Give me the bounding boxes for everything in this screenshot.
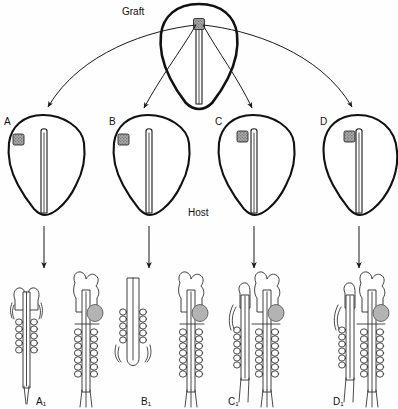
c1-secondary-embryo [229,283,250,402]
c1-host-embryo [252,272,284,407]
host-b-label: B [109,116,116,127]
c1-host-somites-left [255,329,262,377]
development-arrows [44,226,359,268]
c1-host-tail [261,390,273,407]
host-embryo-d: D [320,115,397,215]
a1-host-somites-right [90,329,97,377]
c1-host-otic-vesicle [268,305,284,322]
result-a1: A₁ [11,272,104,407]
d1-secondary-fin-folds [334,305,341,330]
result-a1-label: A₁ [36,396,47,407]
host-embryo-a: A [4,115,85,215]
result-c1: C₁ [228,272,284,407]
host-row-label: Host [188,207,209,218]
b1-secondary-embryo [115,278,151,366]
result-d1-label: D₁ [333,396,344,407]
figure-canvas: Graft A B [0,0,398,409]
host-a-label: A [4,116,11,127]
host-b-graft-marker [118,134,129,145]
embryo-transplantation-figure: Graft A B [0,0,398,409]
b1-host-tail [185,390,197,407]
d1-secondary-somites [339,327,346,368]
result-c1-label: C₁ [228,396,239,407]
host-d-label: D [320,116,327,127]
b1-secondary-somites-right [140,309,147,343]
a1-host-tail [80,390,92,407]
a1-secondary-somites-left [16,319,23,353]
d1-host-tail [366,390,378,407]
c1-secondary-fin-folds [229,305,236,330]
c1-secondary-somites [234,327,241,368]
a1-host-somites-left [74,329,81,377]
b1-host-somites-left [179,329,186,377]
host-c-label: C [215,116,222,127]
a1-secondary-somites-right [31,319,38,353]
host-embryo-b: B [109,115,190,215]
graft-tissue-square [194,19,205,30]
d1-host-otic-vesicle [373,305,389,322]
a1-secondary-embryo [11,288,43,404]
b1-host-somites-right [195,329,202,377]
b1-host-embryo [179,272,208,407]
result-b1: B₁ [115,272,208,407]
d1-host-somites-left [360,329,367,377]
host-d-graft-marker [344,131,355,142]
d1-host-somites-right [376,329,383,377]
d1-secondary-tail [344,378,354,402]
donor-embryo: Graft [122,4,238,109]
result-d1: D₁ [333,272,389,407]
host-a-graft-marker [13,134,24,145]
d1-secondary-embryo [334,283,355,402]
a1-secondary-tail [24,386,29,404]
c1-secondary-tail [239,378,249,402]
host-c-graft-marker [237,131,248,142]
host-embryo-c: C [215,115,295,215]
d1-host-embryo [357,272,389,407]
donor-label: Graft [122,6,144,17]
a1-host-otic-vesicle [87,305,103,322]
c1-host-somites-right [271,329,278,377]
b1-host-otic-vesicle [192,305,208,322]
result-b1-label: B₁ [141,396,152,407]
a1-host-embryo [74,272,103,407]
b1-secondary-somites-left [120,309,127,343]
